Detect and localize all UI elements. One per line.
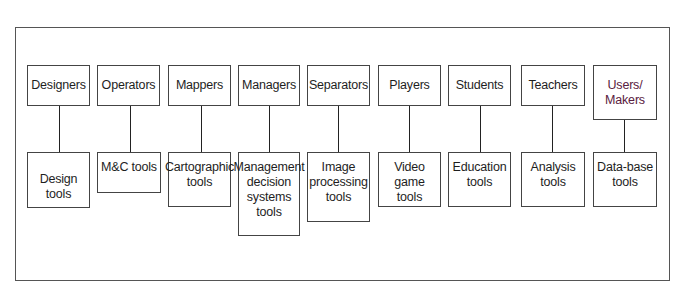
connector-line <box>201 106 202 152</box>
connector-line <box>269 106 270 152</box>
role-label: Managers <box>242 78 296 93</box>
connector-line <box>130 106 131 152</box>
tool-label: Design tools <box>40 172 78 202</box>
role-label: Players <box>389 78 429 93</box>
role-label: Operators <box>102 78 156 93</box>
connector-line <box>624 120 625 152</box>
tool-label: Education tools <box>453 160 507 190</box>
role-box-players: Players <box>378 65 441 106</box>
role-label: Separators <box>309 78 368 93</box>
role-box-separators: Separators <box>307 65 370 106</box>
connector-line <box>409 106 410 152</box>
tool-box-video-game: Video game tools <box>378 152 441 207</box>
connector-line <box>552 106 553 152</box>
role-box-teachers: Teachers <box>521 65 585 106</box>
tool-label: Management decision systems tools <box>234 160 305 220</box>
role-box-students: Students <box>448 65 511 106</box>
role-box-operators: Operators <box>97 65 160 106</box>
connector-line <box>338 106 339 152</box>
role-label: Teachers <box>528 78 577 93</box>
tool-box-design: Design tools <box>27 152 90 208</box>
tool-box-image-processing: Image processing tools <box>307 152 370 222</box>
role-box-managers: Managers <box>238 65 300 106</box>
tool-box-management: Management decision systems tools <box>238 152 300 236</box>
tool-label: M&C tools <box>101 160 157 175</box>
tool-label: Analysis tools <box>531 160 576 190</box>
connector-line <box>59 106 60 152</box>
role-box-users-makers: Users/ Makers <box>593 65 657 120</box>
role-label: Designers <box>31 78 85 93</box>
tool-label: Cartographic tools <box>165 160 234 190</box>
tool-label: Image processing tools <box>309 160 367 205</box>
connector-line <box>480 106 481 152</box>
role-label: Mappers <box>176 78 223 93</box>
tool-box-mc: M&C tools <box>97 152 161 193</box>
tool-label: Data-base tools <box>597 160 653 190</box>
tool-box-analysis: Analysis tools <box>521 152 585 207</box>
role-label: Students <box>456 78 504 93</box>
tool-box-education: Education tools <box>448 152 511 207</box>
role-box-mappers: Mappers <box>168 65 231 106</box>
role-label: Users/ Makers <box>605 78 645 108</box>
tool-box-database: Data-base tools <box>593 152 657 207</box>
tool-label: Video game tools <box>379 160 440 205</box>
role-box-designers: Designers <box>27 65 90 106</box>
tool-box-cartographic: Cartographic tools <box>168 152 231 207</box>
